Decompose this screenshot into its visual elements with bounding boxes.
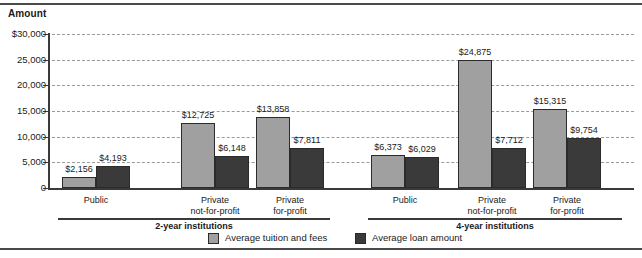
legend-label: Average tuition and fees bbox=[225, 233, 327, 243]
bar-value-label: $24,875 bbox=[451, 48, 499, 57]
bar-loan bbox=[492, 148, 526, 188]
bar-value-label: $15,315 bbox=[526, 97, 574, 106]
bar-value-label: $9,754 bbox=[560, 126, 608, 135]
group-rule bbox=[368, 218, 622, 220]
group-rule bbox=[58, 218, 330, 220]
bar-loan bbox=[290, 148, 324, 188]
bar-tuition bbox=[458, 60, 492, 188]
bar-value-label: $12,725 bbox=[174, 111, 222, 120]
x-axis-category-label: Public bbox=[360, 195, 450, 206]
bar-value-label: $7,811 bbox=[283, 136, 331, 145]
bar-tuition bbox=[533, 109, 567, 188]
bar-loan bbox=[405, 157, 439, 188]
legend-item: Average loan amount bbox=[355, 231, 462, 245]
bar-tuition bbox=[256, 117, 290, 188]
chart-legend: Average tuition and feesAverage loan amo… bbox=[0, 231, 642, 245]
legend-swatch-loan bbox=[355, 233, 366, 244]
bar-loan bbox=[215, 156, 249, 188]
bottom-divider-rule bbox=[0, 248, 642, 250]
group-label: 2-year institutions bbox=[58, 221, 330, 231]
bar-value-label: $6,029 bbox=[398, 145, 446, 154]
bar-value-label: $13,858 bbox=[249, 105, 297, 114]
legend-label: Average loan amount bbox=[372, 233, 462, 243]
group-label: 4-year institutions bbox=[368, 221, 622, 231]
legend-swatch-tuition bbox=[208, 233, 219, 244]
bar-loan bbox=[567, 138, 601, 188]
bar-value-label: $2,156 bbox=[55, 165, 103, 174]
x-axis-category-label: Privatefor-profit bbox=[245, 195, 335, 216]
chart-figure: Amount $30,00025,00020,00015,00010,0005,… bbox=[0, 0, 642, 258]
x-axis-category-label: Privatefor-profit bbox=[522, 195, 612, 216]
x-axis-category-label: Public bbox=[51, 195, 141, 206]
bar-value-label: $6,148 bbox=[208, 144, 256, 153]
bar-tuition bbox=[371, 155, 405, 188]
bar-value-label: $4,193 bbox=[89, 154, 137, 163]
bar-tuition bbox=[62, 177, 96, 188]
legend-item: Average tuition and fees bbox=[208, 231, 327, 245]
bar-tuition bbox=[181, 123, 215, 188]
bar-value-label: $7,712 bbox=[485, 136, 533, 145]
